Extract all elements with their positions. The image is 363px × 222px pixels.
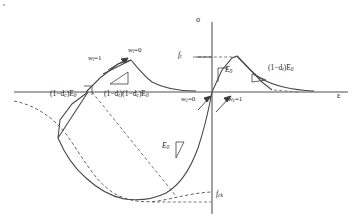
compression-envelope-group [14, 101, 211, 202]
label-compression-strength: fck [216, 190, 223, 199]
reference-levels [152, 57, 236, 202]
axis-label-sigma: σ [196, 16, 200, 24]
label-weight-compression-zero: wc=0 [181, 96, 195, 103]
slope-triangle-tension-right [252, 74, 266, 82]
label-degraded-compression-stiffness: (1−dc)E0 [50, 90, 76, 99]
slope-triangle-tension-left [110, 72, 128, 84]
tension-slope-line-left [103, 60, 131, 74]
tension-reload-left [86, 60, 131, 92]
compression-envelope-dashed [14, 101, 211, 202]
tension-left-group [86, 60, 196, 92]
axis-label-epsilon: ε [337, 92, 340, 100]
slope-triangle-group [84, 68, 266, 158]
compression-unload-upper [58, 92, 88, 138]
label-weight-compression-one: wc=1 [228, 96, 242, 103]
label-degraded-both-stiffness: (1−dt)(1−dc)E0 [104, 90, 149, 99]
tension-softening-right [237, 56, 314, 91]
label-weight-tension-zero: wt=0 [128, 47, 142, 54]
label-tension-strength: ft [178, 51, 182, 60]
label-stiffness-e0-tension: E0 [225, 66, 232, 75]
plot-canvas [0, 0, 363, 222]
label-weight-tension-one: wt=1 [88, 55, 102, 62]
stress-strain-figure: σ ε ft fck wt=1 wt=0 wc=0 wc=1 E0 E0 (1−… [0, 0, 363, 222]
label-degraded-tension-stiffness: (1−dt)E0 [268, 64, 294, 73]
label-stiffness-e0-compression: E0 [162, 142, 169, 151]
compression-solid-descend [58, 138, 124, 199]
slope-triangle-e0-compression [176, 142, 184, 158]
tension-soften-left [131, 60, 196, 91]
